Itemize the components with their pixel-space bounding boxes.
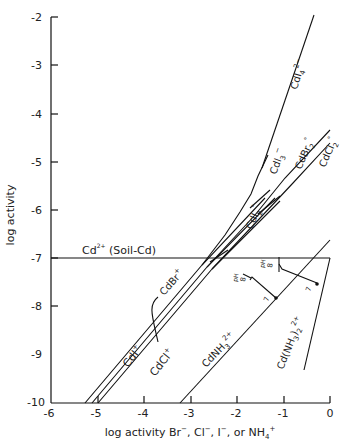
x-tick-labels: -6 -5 -4 -3 -2 -1 0 [44,407,334,420]
y-tick-label: -8 [31,300,42,313]
y-tick-label: -2 [31,11,42,24]
line-cdi4 [262,15,314,168]
ph-connector-1 [250,277,276,298]
line-cdi2-cdi3 [202,155,268,265]
x-tick-label: -6 [44,407,55,420]
y-axis-title: log activity [4,184,17,245]
label-cdbr2: CdBr2° [291,136,319,172]
label-cdi4: CdI42− [286,57,310,91]
x-tick-label: -4 [138,407,149,420]
label-cdi2: CdI2° [242,203,266,232]
line-cdi [85,198,265,403]
label-cdbr: CdBr+ [156,266,186,297]
chart: -2 -3 -4 -5 -6 -7 -8 -9 -10 -6 -5 -4 -3 … [0,0,347,446]
y-tick-label: -7 [31,252,42,265]
ph-seven-2: 7 [304,286,313,293]
ph-seven-1: 7 [262,296,271,303]
label-cd2: Cd2+ (Soil-Cd) [82,242,156,257]
x-tick-label: -2 [231,407,242,420]
x-tick-label: -3 [184,407,195,420]
line-cdnh32 [304,258,330,370]
y-tick-labels: -2 -3 -4 -5 -6 -7 -8 -9 -10 [27,11,45,409]
label-cdcl: CdCl+ [146,345,176,378]
y-tick-label: -4 [31,108,42,121]
y-tick-label: -9 [31,348,42,361]
x-tick-label: -5 [91,407,102,420]
label-cdnh32: Cd(NH3)22+ [273,314,309,371]
x-axis-title: log activity Br−, Cl−, I−, or NH4+ [105,425,276,441]
series-labels: Cd2+ (Soil-Cd) CdI+ CdBr+ CdCl+ CdI2° Cd… [82,57,342,379]
y-tick-label: -6 [31,204,42,217]
y-tick-label: -5 [31,156,42,169]
ph-value-2: 8 [266,263,275,269]
x-tick-label: -1 [278,407,289,420]
ph-connector-2 [279,264,317,283]
y-tick-label: -3 [31,59,42,72]
label-cdi3: CdI3− [266,146,290,177]
label-cdcl2: CdCl2° [315,135,342,170]
ph-value-1: 8 [239,277,248,283]
label-cdnh3: CdNH32+ [198,329,240,371]
y-tick-label: -10 [27,396,45,409]
x-tick-label: 0 [327,407,334,420]
